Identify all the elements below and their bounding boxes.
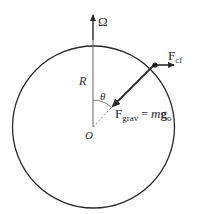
origin-label: O (85, 129, 93, 141)
surface-point (152, 62, 157, 67)
theta-label: θ (100, 90, 106, 102)
dashed-radius (93, 108, 111, 127)
radius-label: R (78, 74, 87, 88)
gravity-force-label: Fgrav = mgo (115, 106, 172, 123)
omega-label: Ω (98, 14, 108, 29)
centrifugal-force-label: Fcf (168, 48, 182, 65)
earth-force-diagram: Ω R θ O Fcf Fgrav = mgo (0, 0, 200, 214)
gravity-arrow (113, 65, 154, 106)
